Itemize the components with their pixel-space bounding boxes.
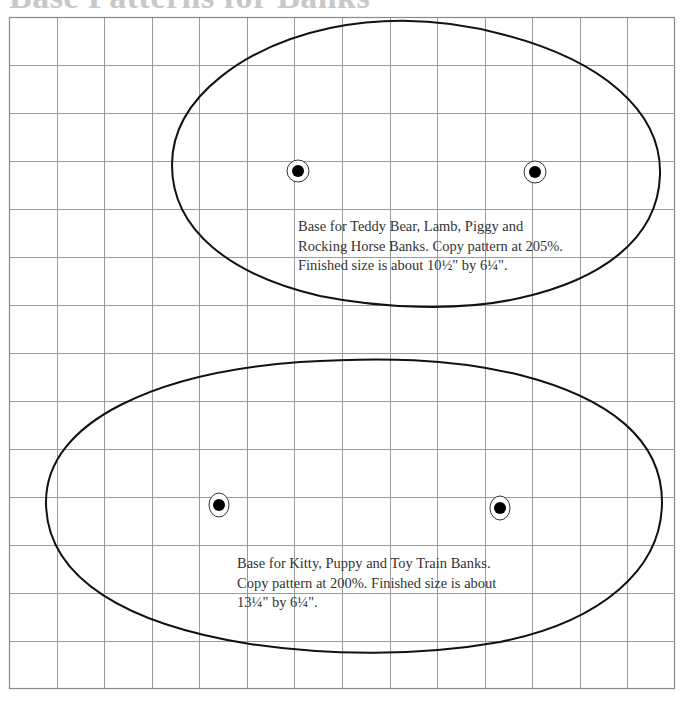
mounting-hole-icon [209, 493, 229, 517]
caption-line: Base for Kitty, Puppy and Toy Train Bank… [237, 554, 496, 574]
mounting-hole-icon [524, 161, 546, 183]
upper-base-holes [287, 160, 546, 183]
caption-line: Base for Teddy Bear, Lamb, Piggy and [298, 217, 563, 237]
caption-line: Finished size is about 10½" by 6¼". [298, 256, 563, 276]
mounting-hole-icon [490, 496, 510, 520]
upper-base-caption: Base for Teddy Bear, Lamb, Piggy and Roc… [298, 217, 563, 276]
caption-line: Copy pattern at 200%. Finished size is a… [237, 574, 496, 594]
caption-line: Rocking Horse Banks. Copy pattern at 205… [298, 237, 563, 257]
caption-line: 13¼" by 6¼". [237, 593, 496, 613]
mounting-hole-icon [287, 160, 309, 182]
lower-base-caption: Base for Kitty, Puppy and Toy Train Bank… [237, 554, 496, 613]
